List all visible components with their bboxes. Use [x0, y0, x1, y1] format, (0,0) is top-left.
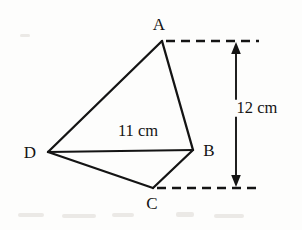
arrow-head-down-icon — [231, 175, 241, 187]
arrow-head-up-icon — [231, 42, 241, 54]
diagonal-group — [48, 150, 193, 152]
diagonal-length-label: 11 cm — [116, 123, 160, 140]
vertex-label-d: D — [24, 144, 36, 161]
vertex-label-a: A — [153, 16, 165, 33]
geometry-figure: A B C D 11 cm 12 cm — [0, 0, 302, 230]
vertex-label-b: B — [203, 142, 215, 159]
edge-AB — [162, 41, 193, 150]
polygon-edges — [48, 41, 193, 188]
height-dimension-label: 12 cm — [235, 100, 280, 117]
vertex-label-c: C — [146, 195, 158, 212]
edge-CD — [48, 152, 153, 188]
diagonal-DB — [48, 150, 193, 152]
edge-BC — [153, 150, 193, 188]
